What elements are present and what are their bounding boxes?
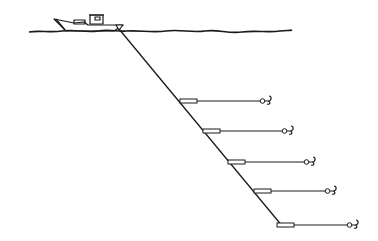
swivel-icon <box>325 189 330 194</box>
sinker-icon <box>254 189 271 193</box>
sinker-icon <box>180 99 197 103</box>
hook-icon <box>330 186 336 194</box>
sinker-icon <box>277 223 294 227</box>
hook-icon <box>309 157 315 165</box>
diagram-canvas <box>0 0 378 241</box>
branch-lines <box>180 96 358 228</box>
hook-icon <box>287 126 293 134</box>
swivel-icon <box>304 160 309 165</box>
main-dropline <box>119 29 283 227</box>
fishing-gear-illustration <box>0 0 378 241</box>
swivel-icon <box>260 99 265 104</box>
branch-line <box>254 186 336 194</box>
hook-icon <box>265 96 271 104</box>
sinker-icon <box>228 160 245 164</box>
sinker-icon <box>203 129 220 133</box>
boat-icon <box>54 15 123 31</box>
branch-line <box>228 157 315 165</box>
hook-icon <box>352 220 358 228</box>
branch-line <box>203 126 293 134</box>
swivel-icon <box>282 129 287 134</box>
branch-line <box>277 220 358 228</box>
water-surface-line <box>29 30 292 32</box>
branch-line <box>180 96 271 104</box>
swivel-icon <box>347 223 352 228</box>
